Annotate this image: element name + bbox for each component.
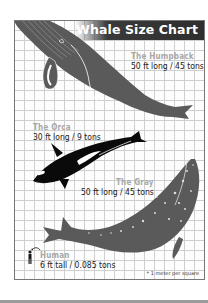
- chart-frame: Whale Size Chart The Humpback 50 ft long…: [14, 20, 205, 280]
- animal-name: The Orca: [33, 123, 101, 132]
- animal-stats: 30 ft long / 9 tons: [33, 132, 101, 142]
- scale-footnote: * 1 meter per square: [147, 270, 199, 276]
- animal-name: The Gray: [81, 178, 154, 187]
- animal-stats: 50 ft long / 45 tons: [81, 187, 154, 197]
- human-icon: [28, 248, 40, 264]
- chart-title: Whale Size Chart: [76, 22, 198, 37]
- humpback-label: The Humpback 50 ft long / 45 tons: [131, 52, 204, 71]
- animal-stats: 6 ft tall / 0.085 tons: [40, 260, 115, 270]
- animal-name: Human: [40, 251, 115, 260]
- title-bar: Whale Size Chart: [75, 21, 204, 40]
- orca-label: The Orca 30 ft long / 9 tons: [33, 123, 101, 142]
- animal-stats: 50 ft long / 45 tons: [131, 61, 204, 71]
- gray-label: The Gray 50 ft long / 45 tons: [81, 178, 154, 197]
- animal-name: The Humpback: [131, 52, 204, 61]
- human-label: Human 6 ft tall / 0.085 tons: [40, 251, 115, 270]
